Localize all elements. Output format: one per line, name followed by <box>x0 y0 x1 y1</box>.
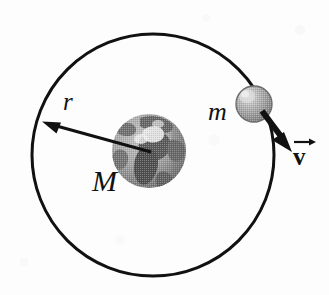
orbit-diagram-figure: M m r v <box>0 0 329 295</box>
velocity-vector-arrow <box>262 111 292 152</box>
diagram-canvas <box>0 0 329 295</box>
label-velocity-vector: v <box>292 136 322 172</box>
label-velocity-symbol: v <box>293 144 306 169</box>
label-orbiting-mass: m <box>208 99 227 125</box>
label-orbit-radius: r <box>63 89 73 114</box>
label-central-mass: M <box>92 166 117 196</box>
earth-globe <box>110 112 209 192</box>
